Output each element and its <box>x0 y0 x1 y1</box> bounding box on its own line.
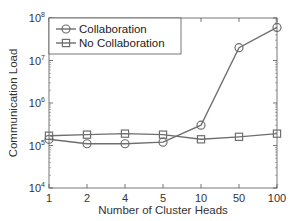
y-tick-label: 106 <box>29 96 45 109</box>
x-tick-label: 50 <box>233 192 245 204</box>
y-tick-label: 104 <box>29 181 45 194</box>
x-tick-label: 10 <box>195 192 207 204</box>
x-tick-label: 100 <box>268 192 286 204</box>
legend-label: Collaboration <box>79 23 147 35</box>
x-tick-label: 4 <box>122 192 128 204</box>
legend-label: No Collaboration <box>79 37 165 49</box>
x-tick-label: 5 <box>160 192 166 204</box>
x-tick-label: 2 <box>84 192 90 204</box>
y-tick-label: 105 <box>29 139 45 152</box>
y-axis-label: Communication Load <box>7 49 19 158</box>
legend: CollaborationNo Collaboration <box>49 18 181 54</box>
line-chart: 10410510610710812451050100 Collaboration… <box>0 0 299 221</box>
x-axis-label: Number of Cluster Heads <box>98 204 228 216</box>
x-tick-label: 1 <box>46 192 52 204</box>
series-no-collaboration <box>45 130 280 143</box>
y-tick-label: 107 <box>29 54 45 67</box>
y-tick-label: 108 <box>29 11 45 24</box>
